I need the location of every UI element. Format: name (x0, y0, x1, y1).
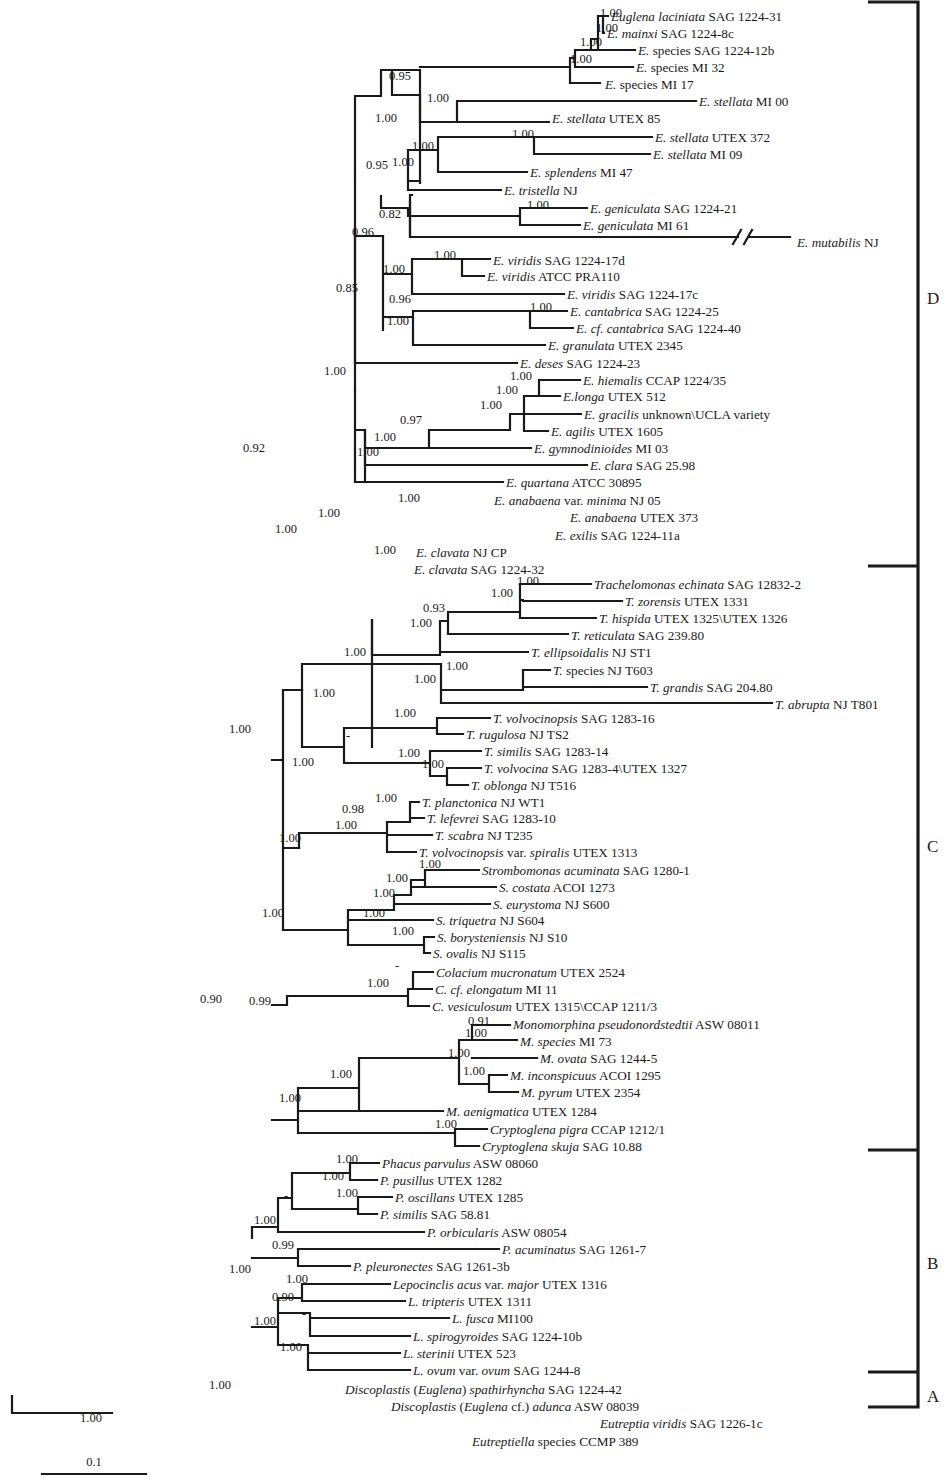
support-value: 0.98 (342, 802, 364, 816)
taxon-label: T. similis SAG 1283-14 (484, 744, 609, 759)
support-value: 1.00 (279, 1091, 301, 1105)
taxon-label: T. abrupta NJ T801 (775, 697, 879, 712)
support-value: 1.00 (254, 1213, 276, 1227)
support-value: 0.96 (389, 292, 411, 306)
support-value: 1.00 (367, 976, 389, 990)
taxon-label: E. species MI 32 (635, 60, 725, 75)
taxon-label: E. exilis SAG 1224-11a (554, 528, 680, 543)
taxon-label: E. viridis SAG 1224-17c (566, 287, 698, 302)
taxon-label: M. ovata SAG 1244-5 (539, 1051, 658, 1066)
taxon-label: E. mutabilis NJ (796, 235, 879, 250)
support-value: 0.95 (366, 158, 388, 172)
taxon-label: T. reticulata SAG 239.80 (571, 628, 704, 643)
taxon-label: P. pleuronectes SAG 1261-3b (352, 1259, 510, 1274)
support-value: 1.00 (580, 35, 602, 49)
taxon-label: E.longa UTEX 512 (562, 389, 666, 404)
support-value: 1.00 (344, 645, 366, 659)
support-value: 1.00 (254, 1314, 276, 1328)
taxon-label: Lepocinclis acus var. major UTEX 1316 (392, 1277, 607, 1292)
support-value: 1.00 (398, 746, 420, 760)
support-value: 1.00 (363, 906, 385, 920)
taxon-label: E. clara SAG 25.98 (589, 458, 696, 473)
taxon-label: E. cf. cantabrica SAG 1224-40 (575, 321, 741, 336)
taxon-label: L. ovum var. ovum SAG 1244-8 (412, 1363, 581, 1378)
support-value: 1.00 (596, 21, 618, 35)
support-value: 1.00 (527, 198, 549, 212)
support-value: 1.00 (414, 672, 436, 686)
taxon-label: E. gymnodinioides MI 03 (533, 441, 668, 456)
taxon-label: S. triquetra NJ S604 (436, 913, 545, 928)
support-value: 1.00 (427, 91, 449, 105)
taxon-label: E. anabaena var. minima NJ 05 (493, 493, 661, 508)
support-value: 1.00 (209, 1378, 231, 1392)
support-value: 1.00 (335, 818, 357, 832)
taxon-label: L. fusca MI100 (451, 1311, 533, 1326)
taxon-label: E. stellata UTEX 85 (551, 111, 661, 126)
support-value: 1.00 (496, 383, 518, 397)
taxon-label: E. stellata MI 09 (652, 147, 743, 162)
support-value: 1.00 (275, 522, 297, 536)
support-value: 1.00 (324, 364, 346, 378)
taxon-label: T. grandis SAG 204.80 (650, 680, 773, 695)
support-value: 1.00 (463, 1064, 485, 1078)
support-value: 1.00 (374, 430, 396, 444)
support-value: 0.92 (243, 441, 265, 455)
support-value: 1.00 (435, 1117, 457, 1131)
branch-break-icon (733, 230, 752, 244)
support-value: 1.00 (280, 1340, 302, 1354)
taxon-label: E. tristella NJ (503, 183, 578, 198)
taxon-label: P. pusillus UTEX 1282 (379, 1173, 502, 1188)
support-value: 0.99 (272, 1238, 294, 1252)
taxon-label: E. granulata UTEX 2345 (547, 338, 683, 353)
taxon-label: T. ellipsoidalis NJ ST1 (531, 645, 652, 660)
taxon-label: C. vesiculosum UTEX 1315\CCAP 1211/3 (432, 999, 657, 1014)
support-value: 1.00 (600, 6, 622, 20)
taxon-label: Colacium mucronatum UTEX 2524 (436, 965, 625, 980)
support-value: 1.00 (383, 262, 405, 276)
taxon-label: P. orbicularis ASW 08054 (426, 1225, 567, 1240)
support-value: 1.00 (446, 659, 468, 673)
taxon-label: E. species SAG 1224-12b (637, 43, 775, 58)
taxon-label: Eutreptia viridis SAG 1226-1c (599, 1416, 763, 1431)
support-value: - (284, 1189, 288, 1203)
support-value: 1.00 (491, 586, 513, 600)
taxon-label: M. aenigmatica UTEX 1284 (445, 1104, 597, 1119)
support-value: 1.00 (292, 755, 314, 769)
clade-label-a: A (927, 1387, 940, 1406)
taxon-label: Phacus parvulus ASW 08060 (381, 1156, 539, 1171)
support-value: 1.00 (80, 1411, 102, 1425)
support-value: 1.00 (512, 127, 534, 141)
support-value: 1.00 (392, 155, 414, 169)
support-value: 1.00 (374, 543, 396, 557)
taxon-label: T. volvocinopsis var. spiralis UTEX 1313 (419, 845, 638, 860)
taxon-label: T. planctonica NJ WT1 (422, 795, 545, 810)
clade-label-d: D (927, 289, 939, 308)
support-value: 1.00 (313, 686, 335, 700)
taxon-label: P. oscillans UTEX 1285 (394, 1190, 523, 1205)
support-value: 1.00 (336, 1186, 358, 1200)
support-value: 1.00 (394, 706, 416, 720)
taxon-label: M. species MI 73 (519, 1034, 612, 1049)
support-value: 1.00 (262, 906, 284, 920)
taxon-label: M. inconspicuus ACOI 1295 (509, 1068, 661, 1083)
support-value: 1.00 (448, 1046, 470, 1060)
support-value: 1.00 (318, 506, 340, 520)
taxon-label: E. anabaena UTEX 373 (569, 510, 699, 525)
taxon-label: Eutreptiella species CCMP 389 (471, 1434, 639, 1449)
taxon-label: E. geniculata MI 61 (582, 218, 689, 233)
support-value: 1.00 (373, 886, 395, 900)
taxon-label: S. borysteniensis NJ S10 (437, 930, 568, 945)
taxon-label: Monomorphina pseudonordstedtii ASW 08011 (512, 1017, 760, 1032)
taxon-label: E. geniculata SAG 1224-21 (589, 201, 737, 216)
taxon-label: T. hispida UTEX 1325\UTEX 1326 (599, 611, 788, 626)
taxon-label: E. gracilis unknown\UCLA variety (583, 407, 770, 422)
taxon-label: Strombomonas acuminata SAG 1280-1 (482, 863, 690, 878)
taxon-label: Euglena laciniata SAG 1224-31 (610, 9, 782, 24)
taxon-label: E. clavata NJ CP (415, 545, 507, 560)
taxon-label: S. ovalis NJ S115 (433, 946, 526, 961)
support-value: 0.99 (249, 994, 271, 1008)
taxon-label: E. stellata UTEX 372 (654, 130, 770, 145)
taxon-label: E. viridis ATCC PRA110 (486, 269, 620, 284)
support-value: 0.90 (200, 992, 222, 1006)
taxon-label: E. quartana ATCC 30895 (505, 475, 642, 490)
